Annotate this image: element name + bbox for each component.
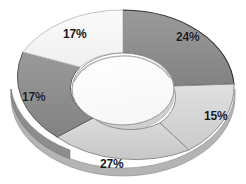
donut-chart: 24% 15% 27% 17% 17% (0, 0, 246, 184)
donut-hole (72, 53, 174, 125)
slice-label-15: 15% (204, 110, 227, 122)
slice-label-24: 24% (176, 31, 199, 43)
slice-label-27: 27% (100, 158, 123, 170)
slice-label-17-top: 17% (63, 28, 86, 40)
slice-label-17-left: 17% (22, 91, 45, 103)
